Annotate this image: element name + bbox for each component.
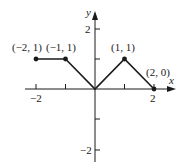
point-label-1-1: (1, 1): [111, 41, 135, 54]
point-label-neg1-1: (−1, 1): [46, 41, 76, 54]
x-axis-arrow-icon: [167, 86, 176, 92]
x-tick-label-neg2: −2: [30, 92, 42, 104]
point-2-0: [152, 87, 157, 92]
x-tick-label-2: 2: [150, 92, 156, 104]
y-tick-label-2: 2: [85, 23, 91, 35]
y-tick-label-neg2: −2: [80, 144, 92, 156]
point-neg1-1: [63, 57, 68, 62]
point-label-2-0: (2, 0): [146, 66, 170, 79]
function-graph: −2 2 x 2 −2 y (−2, 1) (−1, 1) (1, 1) (2,…: [0, 0, 180, 168]
point-1-1: [122, 57, 127, 62]
y-axis-arrow-icon: [92, 11, 98, 20]
point-neg2-1: [34, 57, 39, 62]
y-axis-label: y: [85, 6, 91, 18]
point-label-neg2-1: (−2, 1): [12, 41, 42, 54]
